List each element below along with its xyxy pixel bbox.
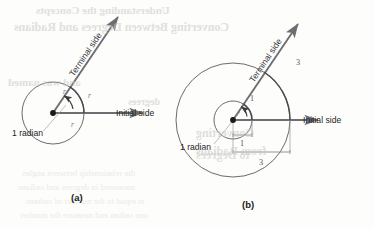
panel-b (176, 24, 318, 177)
panel-a (22, 17, 143, 144)
initial-side-label-b: Initial side (303, 115, 341, 125)
terminal-side-label-b: Terminal side (247, 36, 284, 84)
arc-label-a: r (88, 91, 91, 100)
figure-canvas: Terminal side Initial side 1 radian r r … (0, 0, 374, 229)
radius-label-a-2: r (71, 120, 74, 129)
inner-intercepted-arc-b (243, 104, 252, 120)
inner-arc-label-b: 1 (250, 94, 254, 103)
angle-arc-a (64, 96, 73, 109)
inner-radius-label-b: 1 (240, 139, 244, 148)
radius-label-a-1: r (63, 87, 66, 96)
angle-label-a: 1 radian (12, 128, 43, 138)
terminal-side-ray-a (53, 17, 118, 113)
radian-measure-figure: Understanding the ConceptsConverting Bet… (0, 0, 374, 229)
outer-arc-label-b: 3 (296, 58, 300, 67)
intercepted-arc-a (70, 87, 84, 113)
panel-caption-b: (b) (242, 199, 254, 210)
panel-caption-a: (a) (71, 192, 83, 203)
vertex-point-b (230, 117, 236, 123)
terminal-side-label-a: Terminal side (67, 30, 104, 78)
outer-radius-label-b: 3 (259, 158, 263, 167)
vertex-point-a (50, 110, 56, 116)
outer-intercepted-arc-b (264, 72, 290, 120)
angle-label-b: 1 radian (180, 142, 211, 152)
initial-side-label-a: Initial side (116, 108, 154, 118)
